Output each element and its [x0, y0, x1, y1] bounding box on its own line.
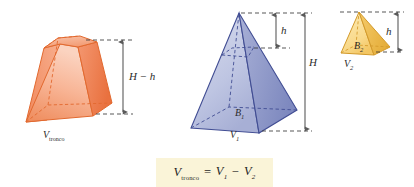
- formula-equals: =: [199, 165, 216, 180]
- geometry-figure-page: H − h Vtronco: [0, 0, 414, 187]
- formula-term2: V2: [244, 164, 256, 181]
- pyramid1-h-label: h: [281, 24, 287, 36]
- formula-term1: V1: [216, 164, 228, 181]
- large-pyramid-shape: [191, 13, 312, 133]
- frustum-shape: [26, 36, 133, 122]
- formula-lhs: Vtronco: [173, 165, 199, 181]
- pyramid1-H-label: H: [308, 56, 318, 68]
- pyramid2-h-label: h: [386, 25, 392, 37]
- frustum-volume-label: Vtronco: [43, 129, 64, 142]
- formula-box: Vtronco = V1 − V2: [156, 158, 273, 187]
- pyramid2-volume-label: V2: [344, 58, 354, 71]
- frustum-height-label: H − h: [128, 70, 156, 82]
- small-pyramid-shape: [340, 12, 404, 55]
- formula-text: Vtronco = V1 − V2: [156, 158, 273, 187]
- formula-minus: −: [227, 165, 244, 180]
